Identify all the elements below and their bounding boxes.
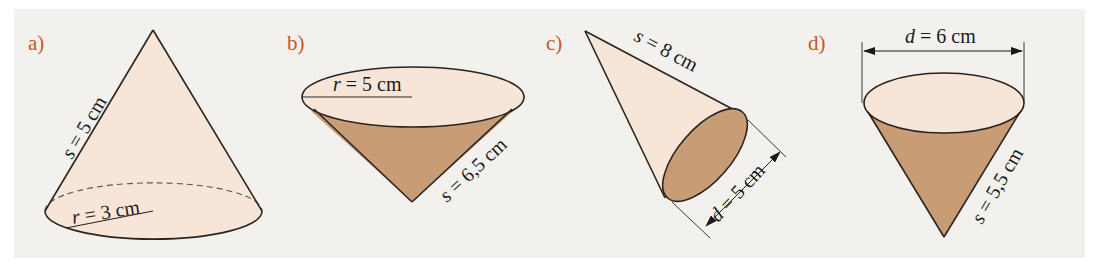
label-c: c): [546, 31, 562, 56]
label-d: d): [808, 31, 826, 56]
cone-b: r = 5 cm s = 6,5 cm: [302, 67, 524, 206]
cone-c: s = 8 cm d = 5 cm: [585, 24, 786, 238]
diameter-label-d: d = 6 cm: [905, 25, 976, 47]
radius-label-b: r = 5 cm: [333, 73, 402, 95]
cone-a: s = 5 cm r = 3 cm: [45, 30, 262, 239]
label-a: a): [28, 31, 44, 56]
label-b: b): [287, 31, 305, 56]
cone-d: d = 6 cm s = 5,5 cm: [862, 25, 1027, 237]
